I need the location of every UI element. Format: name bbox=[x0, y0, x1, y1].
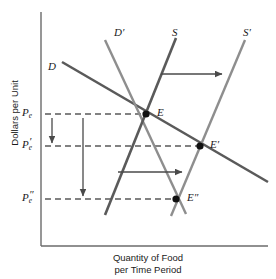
curve-lines bbox=[62, 38, 268, 216]
axis-lines bbox=[41, 12, 268, 246]
equilibrium-point-E2 bbox=[172, 195, 179, 202]
price-label-pe-double-prime: Pe″ bbox=[22, 192, 37, 203]
equilibrium-point-E0 bbox=[142, 110, 149, 117]
equilibrium-label-e: E bbox=[157, 107, 164, 118]
curve-label-supply-prime: S′ bbox=[243, 27, 251, 38]
equilibrium-label-e-double-prime: E″ bbox=[187, 192, 198, 203]
curve-label-demand-prime: D′ bbox=[114, 27, 124, 38]
price-reference-lines bbox=[45, 114, 200, 199]
price-label-pe-prime: Pe′ bbox=[22, 139, 34, 150]
supply-demand-figure: Pe Pe′ Pe″ D D′ S S′ E E′ E″ Dollars per… bbox=[0, 0, 276, 279]
chart-canvas bbox=[0, 0, 276, 279]
curve-label-supply: S bbox=[172, 27, 178, 38]
equilibrium-point-E1 bbox=[196, 142, 203, 149]
price-label-pe: Pe bbox=[22, 107, 32, 118]
curve-label-demand: D bbox=[48, 61, 56, 72]
equilibrium-label-e-prime: E′ bbox=[210, 139, 219, 150]
y-axis-title: Dollars per Unit bbox=[9, 63, 21, 163]
curve-original-demand bbox=[62, 62, 268, 182]
x-axis-title: Quantity of Food per Time Period bbox=[68, 252, 228, 276]
curve-shifted-supply-rightward bbox=[171, 40, 245, 216]
